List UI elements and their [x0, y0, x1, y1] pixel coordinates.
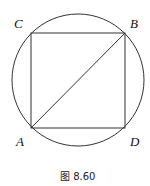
- label-a: A: [15, 134, 24, 149]
- diagonal-ab: [31, 33, 125, 128]
- diagram-canvas: C B A D 图 8.60: [0, 0, 150, 186]
- label-c: C: [14, 16, 23, 31]
- label-d: D: [129, 134, 140, 149]
- label-b: B: [130, 16, 138, 31]
- figure-caption: 图 8.60: [60, 171, 95, 182]
